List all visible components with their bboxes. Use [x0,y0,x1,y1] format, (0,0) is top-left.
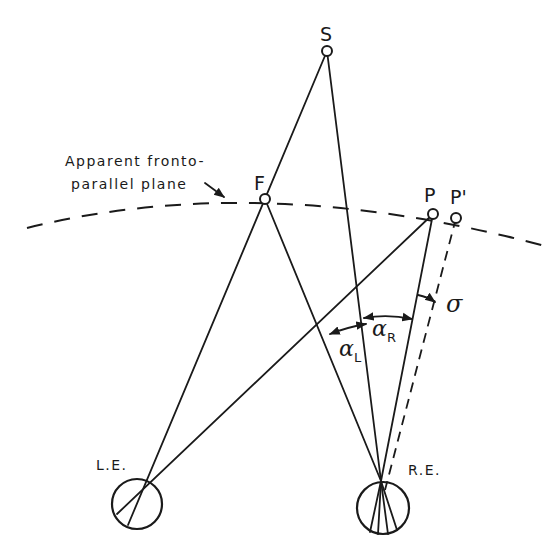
alpha-r-subscript: R [387,330,396,345]
fronto-parallel-plane-curve [27,203,545,246]
plane-label-pointer-arrow [205,183,224,197]
sigma-arc [418,295,435,302]
point-s [322,46,332,56]
point-p [428,209,438,219]
point-p-label: P [424,184,435,206]
alpha-l-arc [330,324,366,334]
line-le-to-s [128,51,327,525]
binocular-geometry-diagram: Apparent fronto- parallel plane L.E. R.E… [0,0,551,548]
sigma-symbol: σ [446,290,463,318]
plane-label-line1: Apparent fronto- [65,153,205,169]
point-s-label: S [320,23,332,45]
line-p-to-re [381,214,433,481]
plane-label-line2: parallel plane [71,176,187,192]
alpha-l-symbol: α [339,336,354,361]
alpha-l-subscript: L [354,350,362,365]
point-p-prime-label: P' [450,186,467,208]
line-le-to-p [117,214,433,514]
alpha-r-symbol: α [372,316,387,341]
point-f [260,194,270,204]
left-eye-label: L.E. [96,457,128,473]
point-f-label: F [254,172,265,194]
line-pprime-to-re [385,218,456,490]
point-p-prime [451,213,461,223]
right-eye-label: R.E. [408,462,441,478]
